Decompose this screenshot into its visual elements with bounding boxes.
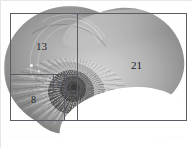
shell-highlight-speck-2: [38, 70, 40, 72]
fibonacci-label-2: 2: [57, 83, 60, 89]
fibonacci-label-3: 3: [63, 77, 66, 82]
nautilus-shell-photo: [0, 0, 192, 148]
fibonacci-label-21: 21: [131, 60, 142, 71]
fibonacci-label-13: 13: [36, 41, 47, 52]
figure-canvas: 13 21 8 2 3: [0, 0, 192, 148]
shell-highlight-speck-1: [30, 64, 33, 67]
fibonacci-label-8: 8: [31, 95, 36, 105]
